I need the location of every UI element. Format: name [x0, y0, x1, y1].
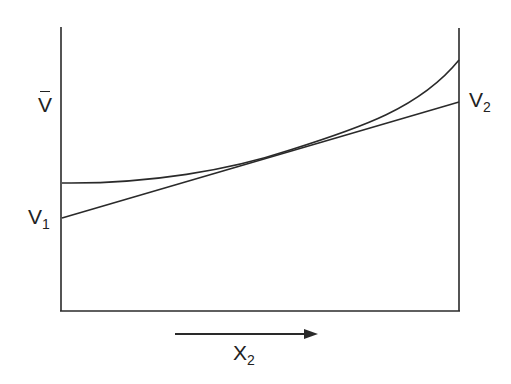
- v2-main: V: [469, 88, 483, 111]
- x2-subscript: 2: [247, 352, 255, 368]
- v2-subscript: 2: [483, 99, 491, 115]
- v1-main: V: [28, 205, 42, 228]
- v1-label: V1: [28, 206, 50, 231]
- x2-main: X: [233, 341, 247, 364]
- tangent-line: [62, 102, 459, 218]
- arrow-head-icon: [304, 329, 318, 339]
- v1-subscript: 1: [42, 216, 50, 232]
- y-axis-label: V: [38, 94, 52, 115]
- y-axis-label-text: V: [38, 94, 52, 115]
- diagram-canvas: [0, 0, 511, 384]
- vbar-curve: [62, 60, 459, 183]
- v2-label: V2: [469, 89, 491, 114]
- x-axis-label: X2: [233, 342, 255, 367]
